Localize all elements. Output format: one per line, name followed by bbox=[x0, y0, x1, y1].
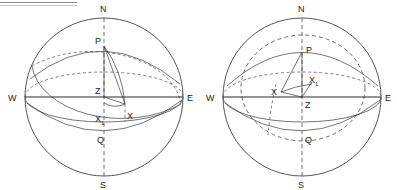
label-equator-point-right: Q bbox=[305, 135, 312, 145]
label-north-right: N bbox=[298, 4, 305, 14]
label-zenith-left: Z bbox=[95, 86, 101, 96]
label-pole-right: P bbox=[306, 45, 312, 55]
label-south-left: S bbox=[100, 180, 106, 190]
label-zenith-right: Z bbox=[305, 100, 311, 110]
label-star-sub-left: X 1 bbox=[95, 114, 105, 126]
label-east-right: E bbox=[385, 93, 391, 103]
label-pole-left: P bbox=[95, 36, 101, 46]
equator-front-left bbox=[32, 66, 181, 118]
label-north-left: N bbox=[100, 4, 107, 14]
circumpolar-circle-right bbox=[241, 35, 365, 141]
zenith-to-star-line-right bbox=[281, 92, 302, 97]
upper-great-circle-left bbox=[30, 51, 180, 84]
label-east-left: E bbox=[187, 93, 193, 103]
zenith-to-star-line-left bbox=[104, 97, 125, 104]
figure-root: N S W E P Z Q X X 1 bbox=[0, 0, 397, 190]
label-south-right: S bbox=[298, 180, 304, 190]
scan-artifact-bar bbox=[0, 2, 77, 3]
upper-great-circle-right bbox=[227, 53, 378, 87]
label-equator-point-left: Q bbox=[97, 135, 104, 145]
star-arc-right bbox=[281, 84, 312, 92]
celestial-sphere-figure: N S W E P Z Q X X 1 bbox=[0, 0, 397, 190]
equator-back-left bbox=[32, 52, 181, 104]
label-star-sub-right: X 1 bbox=[309, 75, 319, 87]
azimuth-arc-left bbox=[104, 103, 125, 106]
label-west-right: W bbox=[206, 93, 215, 103]
label-star-right: X bbox=[271, 87, 277, 97]
label-star-left: X bbox=[127, 111, 133, 121]
label-west-left: W bbox=[8, 93, 17, 103]
scan-artifact-bar-secondary bbox=[0, 5, 77, 6]
celestial-sphere-right: N S W E P Z Q X X 1 bbox=[206, 4, 391, 190]
celestial-sphere-left: N S W E P Z Q X X 1 bbox=[8, 4, 193, 190]
pole-to-star-line-left bbox=[104, 46, 125, 104]
label-star-sub-index-right: 1 bbox=[315, 81, 319, 87]
